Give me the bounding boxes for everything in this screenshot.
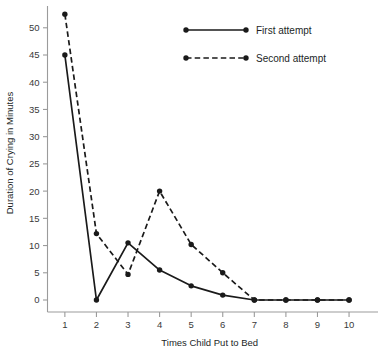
y-tick-label: 0 [34,294,39,305]
x-axis-tick-labels: 12345678910 [62,319,354,330]
series-line [65,55,349,300]
y-axis-ticks [43,28,48,300]
x-tick-label: 4 [157,319,162,330]
x-tick-label: 5 [189,319,194,330]
y-tick-label: 15 [29,213,40,224]
legend-marker [243,27,248,32]
data-point-marker [315,297,320,302]
data-point-marker [346,297,351,302]
y-tick-label: 10 [29,240,40,251]
data-point-marker [94,297,99,302]
data-point-marker [157,188,162,193]
y-tick-label: 45 [29,49,40,60]
legend-marker [183,55,188,60]
legend-marker [183,27,188,32]
x-tick-label: 6 [220,319,225,330]
data-point-marker [283,297,288,302]
y-tick-label: 30 [29,131,40,142]
x-tick-label: 1 [62,319,67,330]
legend-item: Second attempt [183,53,326,64]
data-point-marker [188,242,193,247]
x-tick-label: 2 [94,319,99,330]
legend-marker [243,55,248,60]
legend-label: First attempt [256,25,312,36]
y-tick-label: 50 [29,22,40,33]
y-tick-label: 25 [29,158,40,169]
line-chart: 05101520253035404550 12345678910 Times C… [0,0,385,358]
x-axis-title: Times Child Put to Bed [161,337,258,348]
data-point-marker [252,297,257,302]
chart-legend: First attemptSecond attempt [183,25,326,64]
data-point-marker [220,292,225,297]
x-tick-label: 3 [125,319,130,330]
y-tick-label: 5 [34,267,39,278]
series-solid [62,52,352,302]
y-tick-label: 20 [29,186,40,197]
y-axis: 05101520253035404550 [29,6,48,312]
data-point-marker [62,11,67,16]
x-axis: 12345678910 [48,312,379,330]
legend-label: Second attempt [256,53,326,64]
x-axis-ticks [65,312,349,317]
data-point-marker [188,283,193,288]
data-point-marker [125,272,130,277]
x-tick-label: 10 [344,319,355,330]
x-tick-label: 7 [252,319,257,330]
y-axis-title: Duration of Crying in Minutes [4,92,15,215]
x-tick-label: 9 [315,319,320,330]
data-point-marker [157,267,162,272]
y-tick-label: 40 [29,77,40,88]
legend-item: First attempt [183,25,311,36]
data-point-marker [62,52,67,57]
y-tick-label: 35 [29,104,40,115]
y-axis-tick-labels: 05101520253035404550 [29,22,40,305]
data-point-marker [125,240,130,245]
chart-canvas: 05101520253035404550 12345678910 Times C… [0,0,385,358]
data-point-marker [220,270,225,275]
data-point-marker [94,231,99,236]
x-tick-label: 8 [283,319,288,330]
